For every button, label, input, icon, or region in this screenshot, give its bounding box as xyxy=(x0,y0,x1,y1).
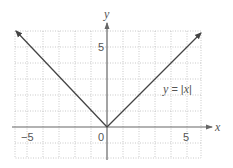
y-axis-label: y xyxy=(103,7,110,21)
tick-x-5: 5 xyxy=(183,131,189,143)
tick-y-5: 5 xyxy=(98,41,104,53)
graph: x y −5 0 5 5 y = |x| xyxy=(0,0,233,168)
right-branch xyxy=(107,33,201,127)
function-label: y = |x| xyxy=(162,82,192,96)
x-axis-label: x xyxy=(214,120,221,134)
tick-origin: 0 xyxy=(98,131,104,143)
tick-x-neg5: −5 xyxy=(21,131,34,143)
